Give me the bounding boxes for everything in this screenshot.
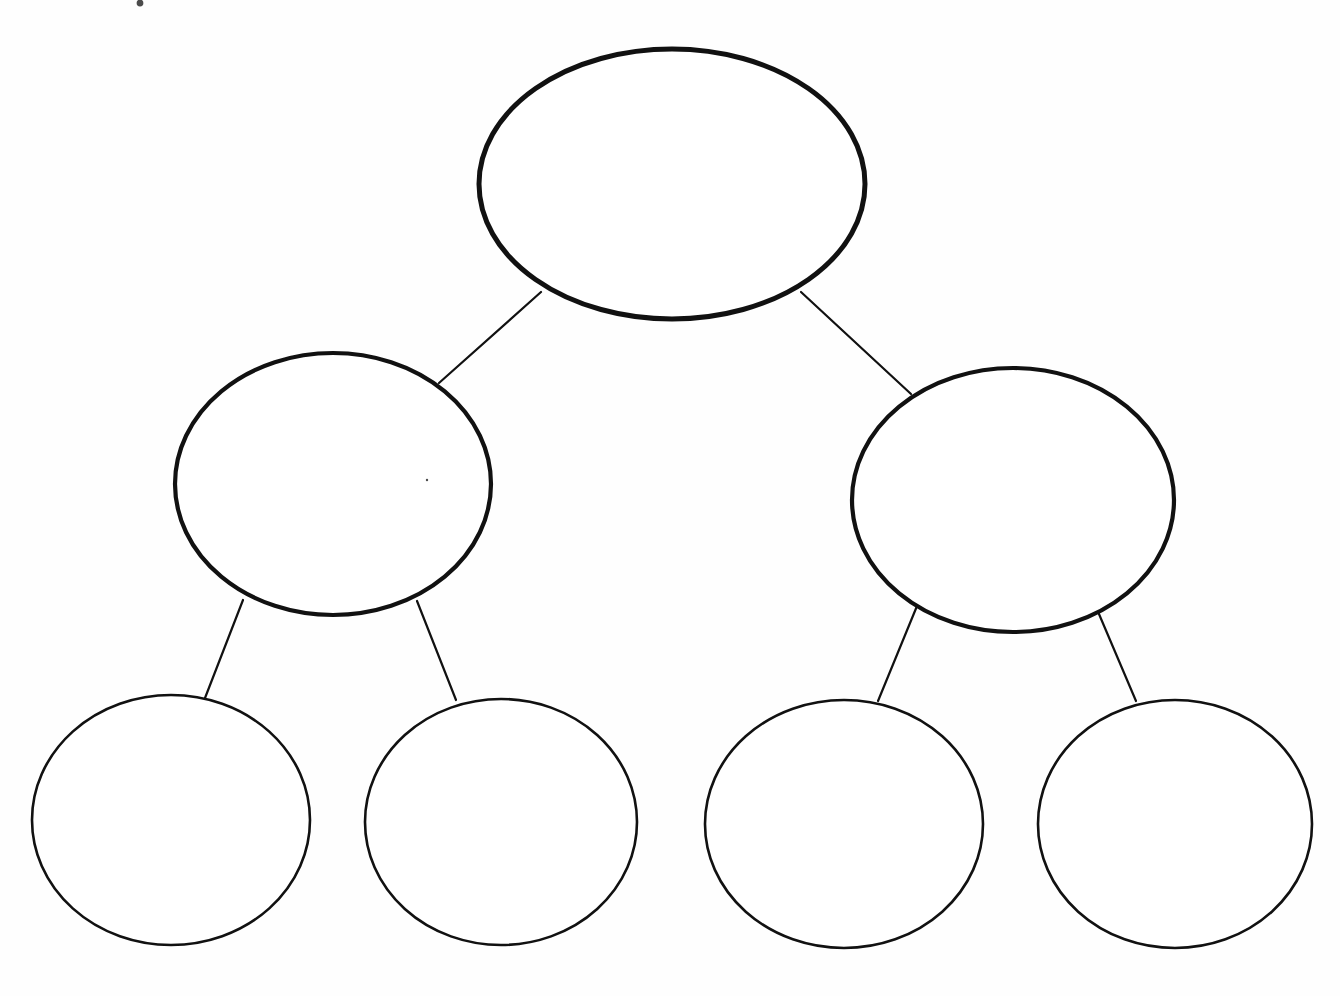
node-root[interactable] xyxy=(479,49,865,319)
ellipse-outline-branch-left[interactable] xyxy=(175,353,491,615)
circle-outline-leaf-4[interactable] xyxy=(1038,700,1312,948)
edge-root-left xyxy=(439,292,541,383)
node-branch-left[interactable] xyxy=(175,353,491,615)
edge-left-leaf1 xyxy=(205,600,243,698)
speck-top xyxy=(137,0,144,6)
edge-right-leaf4 xyxy=(1096,607,1136,701)
nodes-layer xyxy=(32,49,1312,948)
ellipse-outline-root[interactable] xyxy=(479,49,865,319)
edge-left-leaf2 xyxy=(417,601,456,700)
diagram-canvas xyxy=(0,0,1340,996)
speck-inner xyxy=(426,479,428,481)
node-leaf-1[interactable] xyxy=(32,695,310,945)
tree-diagram xyxy=(0,0,1340,996)
edge-root-right xyxy=(801,292,911,394)
edge-right-leaf3 xyxy=(878,606,917,701)
node-leaf-3[interactable] xyxy=(705,700,983,948)
circle-outline-leaf-1[interactable] xyxy=(32,695,310,945)
node-branch-right[interactable] xyxy=(852,368,1174,632)
node-leaf-4[interactable] xyxy=(1038,700,1312,948)
ellipse-outline-branch-right[interactable] xyxy=(852,368,1174,632)
circle-outline-leaf-3[interactable] xyxy=(705,700,983,948)
circle-outline-leaf-2[interactable] xyxy=(365,699,637,945)
node-leaf-2[interactable] xyxy=(365,699,637,945)
